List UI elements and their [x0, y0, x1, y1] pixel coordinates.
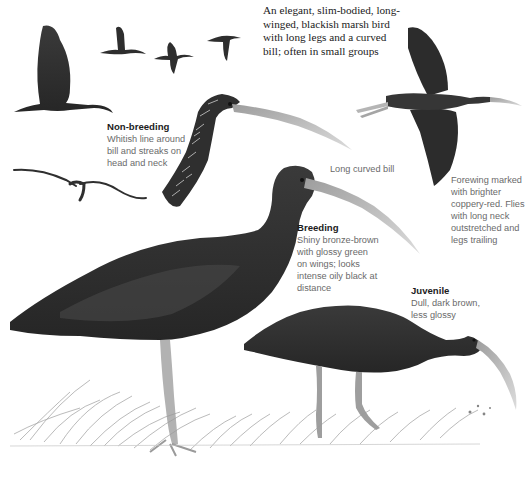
label-juvenile-title: Juvenile — [411, 285, 501, 297]
intro-description: An elegant, slim-bodied, long- winged, b… — [263, 4, 413, 58]
gliding-bird-icon — [14, 170, 146, 200]
large-flying-bird-left-icon — [14, 26, 113, 113]
label-bill-text: Long curved bill — [330, 163, 420, 175]
field-guide-plate: An elegant, slim-bodied, long- winged, b… — [0, 0, 531, 478]
label-breeding: Breeding Shiny bronze-brown with glossy … — [297, 222, 397, 294]
marsh-grass-icon — [10, 380, 491, 450]
label-non-breeding: Non-breeding Whitish line around bill an… — [107, 121, 199, 169]
label-juvenile-text: Dull, dark brown, less glossy — [411, 297, 501, 321]
label-non-breeding-title: Non-breeding — [107, 121, 199, 133]
label-breeding-title: Breeding — [297, 222, 397, 234]
juvenile-feeding-icon — [244, 306, 516, 438]
flock-in-flight-icon — [100, 27, 241, 74]
label-non-breeding-text: Whitish line around bill and streaks on … — [107, 133, 199, 169]
label-flight: Forewing marked with brighter coppery-re… — [451, 174, 531, 246]
label-breeding-text: Shiny bronze-brown with glossy green on … — [297, 234, 397, 294]
label-bill: Long curved bill — [330, 163, 420, 175]
label-juvenile: Juvenile Dull, dark brown, less glossy — [411, 285, 501, 321]
label-flight-text: Forewing marked with brighter coppery-re… — [451, 174, 531, 246]
